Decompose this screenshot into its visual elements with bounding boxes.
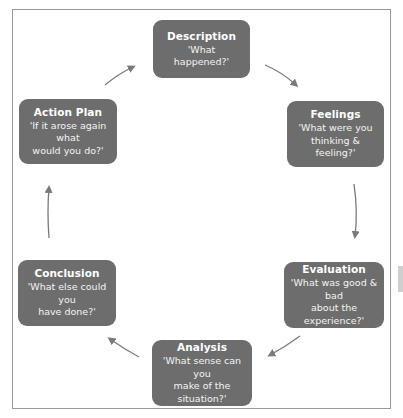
stage-question: 'What were you thinking & feeling?' bbox=[293, 122, 378, 160]
stage-action-plan: Action Plan 'If it arose again what woul… bbox=[19, 99, 117, 164]
stage-evaluation: Evaluation 'What was good & bad about th… bbox=[284, 262, 384, 328]
stage-question: 'If it arose again what would you do?' bbox=[25, 120, 111, 158]
stage-question: 'What happened?' bbox=[159, 44, 244, 69]
stage-question: 'What was good & bad about the experienc… bbox=[290, 277, 378, 327]
stage-title: Feelings bbox=[310, 108, 360, 121]
stage-question-line: thinking & feeling?' bbox=[293, 135, 378, 160]
stage-feelings: Feelings 'What were you thinking & feeli… bbox=[287, 101, 384, 167]
stage-question-line: have done?' bbox=[24, 306, 110, 319]
stage-question-line: make of the situation?' bbox=[158, 380, 246, 405]
stage-question-line: 'What sense can you bbox=[158, 355, 246, 380]
page-edge-sliver bbox=[398, 266, 403, 292]
stage-title: Conclusion bbox=[34, 267, 99, 280]
stage-question-line: 'What else could you bbox=[24, 281, 110, 306]
stage-title: Action Plan bbox=[34, 106, 102, 119]
stage-question-line: about the experience?' bbox=[290, 302, 378, 327]
stage-title: Evaluation bbox=[302, 263, 366, 276]
stage-question-line: 'What was good & bad bbox=[290, 277, 378, 302]
stage-question: 'What else could you have done?' bbox=[24, 281, 110, 319]
stage-question: 'What sense can you make of the situatio… bbox=[158, 355, 246, 405]
stage-analysis: Analysis 'What sense can you make of the… bbox=[152, 340, 252, 406]
stage-question-line: 'What were you bbox=[293, 122, 378, 135]
stage-title: Analysis bbox=[177, 341, 227, 354]
stage-conclusion: Conclusion 'What else could you have don… bbox=[18, 260, 116, 326]
stage-description: Description 'What happened?' bbox=[153, 20, 250, 78]
stage-title: Description bbox=[167, 30, 236, 43]
stage-question-line: 'If it arose again what bbox=[25, 120, 111, 145]
stage-question-line: would you do?' bbox=[25, 145, 111, 158]
